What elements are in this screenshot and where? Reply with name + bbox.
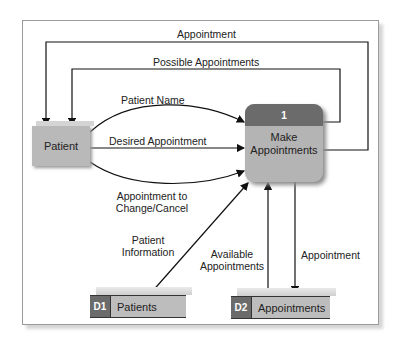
- flow-label-appointment-top: Appointment: [177, 28, 236, 40]
- flow-label-available-appointments: Available Appointments: [198, 248, 266, 272]
- flow-label-line: Appointments: [198, 260, 266, 272]
- flow-label-line: Information: [118, 246, 178, 258]
- data-store-id: D1: [90, 296, 111, 317]
- process-label-line: Appointments: [245, 144, 323, 157]
- data-store-label: Patients: [111, 296, 157, 317]
- data-store-id: D2: [231, 297, 252, 318]
- flow-label-possible-appointments: Possible Appointments: [153, 56, 259, 68]
- process-number: 1: [245, 104, 323, 126]
- flow-lines: [0, 0, 403, 345]
- flow-label-line: Change/Cancel: [112, 202, 192, 214]
- process-make-appointments: 1 Make Appointments: [245, 104, 323, 182]
- data-store-label: Appointments: [252, 297, 325, 318]
- flow-label-appointment-store: Appointment: [301, 249, 360, 261]
- flow-label-line: Appointment to: [112, 190, 192, 202]
- flow-label-patient-information: Patient Information: [118, 234, 178, 258]
- process-label-line: Make: [245, 131, 323, 144]
- data-store-appointments: D2 Appointments: [231, 296, 330, 319]
- external-entity-patient: Patient: [32, 126, 90, 166]
- flow-label-desired-appointment: Desired Appointment: [109, 135, 206, 147]
- entity-label: Patient: [44, 140, 78, 152]
- data-store-patients: D1 Patients: [90, 295, 186, 318]
- flow-label-patient-name: Patient Name: [121, 94, 185, 106]
- flow-label-line: Patient: [118, 234, 178, 246]
- flow-label-line: Available: [198, 248, 266, 260]
- process-label: Make Appointments: [245, 126, 323, 157]
- flow-label-appointment-change: Appointment to Change/Cancel: [112, 190, 192, 214]
